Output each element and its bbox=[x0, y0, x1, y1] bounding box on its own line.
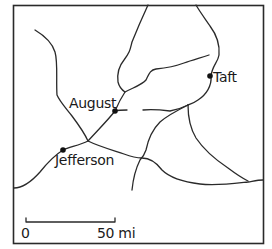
map-border bbox=[14, 6, 264, 244]
map-canvas bbox=[0, 0, 272, 249]
city-label-august: August bbox=[69, 96, 116, 110]
map: August Taft Jefferson 0 50 mi bbox=[0, 0, 272, 249]
city-label-taft: Taft bbox=[213, 70, 237, 84]
city-label-jefferson: Jefferson bbox=[55, 153, 114, 167]
scale-bar bbox=[26, 218, 115, 222]
road-f bbox=[132, 105, 188, 190]
road-h bbox=[88, 141, 263, 185]
road-c bbox=[125, 55, 209, 92]
road-d bbox=[188, 5, 219, 105]
scale-start-label: 0 bbox=[21, 226, 30, 240]
city-dot-taft bbox=[207, 73, 213, 79]
road-g bbox=[188, 105, 248, 181]
road-a bbox=[35, 30, 88, 141]
scale-end-label: 50 mi bbox=[97, 226, 135, 240]
